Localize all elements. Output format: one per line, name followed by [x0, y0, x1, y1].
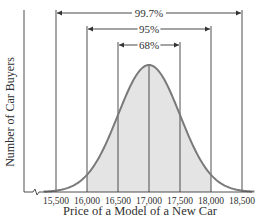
interval-label: 95%	[139, 23, 159, 35]
interval-label: 99.7%	[135, 7, 163, 19]
y-axis-label: Number of Car Buyers	[3, 57, 17, 167]
normal-distribution-chart: 68%95%99.7% 15,50016,00016,50017,00017,5…	[0, 0, 268, 223]
interval-arrows: 68%95%99.7%	[57, 7, 241, 51]
x-axis-label: Price of a Model of a New Car	[63, 204, 218, 218]
x-tick-label: 18,500	[229, 196, 255, 206]
std-dev-lines	[56, 10, 242, 192]
interval-95: 95%	[88, 23, 210, 35]
interval-label: 68%	[139, 39, 159, 51]
interval-997: 99.7%	[57, 7, 241, 19]
axis-break-icon	[33, 189, 39, 195]
interval-68: 68%	[119, 39, 179, 51]
